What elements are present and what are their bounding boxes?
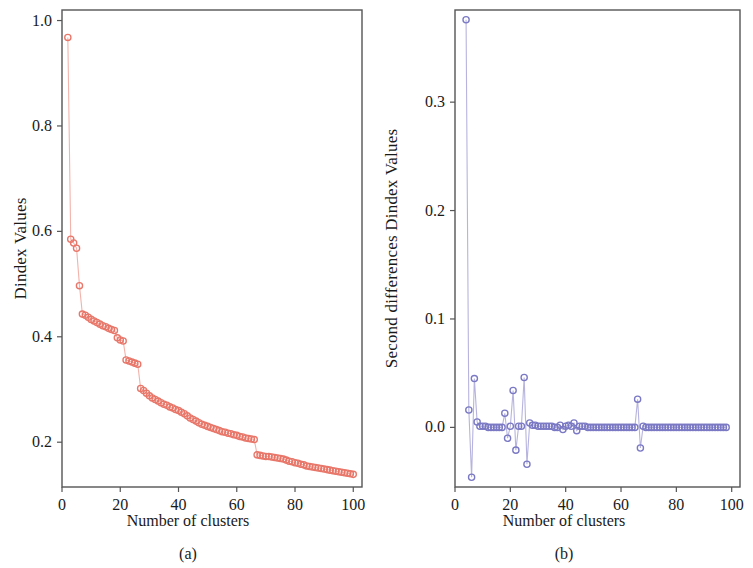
- x-tick-label: 40: [171, 496, 187, 514]
- x-tick-label: 0: [451, 496, 459, 514]
- x-axis-title-a: Number of clusters: [0, 512, 376, 530]
- x-tick-label: 40: [558, 496, 574, 514]
- plot-frame: [455, 10, 740, 487]
- y-axis-title-a: Dindex Values: [6, 0, 36, 497]
- figure-container: Dindex Values Number of clusters (a) 0.2…: [0, 0, 753, 568]
- x-axis-title-b: Number of clusters: [376, 512, 752, 530]
- panel-a: Dindex Values Number of clusters (a) 0.2…: [0, 0, 376, 568]
- x-tick-label: 80: [287, 496, 303, 514]
- y-tick-label: 0.2: [10, 433, 52, 451]
- data-series-line: [68, 37, 353, 474]
- y-tick-label: 0.6: [10, 222, 52, 240]
- x-tick-label: 0: [58, 496, 66, 514]
- y-tick-label: 0.4: [10, 328, 52, 346]
- x-tick-label: 100: [341, 496, 365, 514]
- x-tick-label: 60: [229, 496, 245, 514]
- y-tick-label: 0.3: [403, 93, 445, 111]
- y-tick-label: 0.2: [403, 202, 445, 220]
- x-tick-label: 20: [112, 496, 128, 514]
- x-tick-label: 60: [613, 496, 629, 514]
- data-series-line: [466, 20, 726, 477]
- y-tick-label: 0.8: [10, 117, 52, 135]
- y-tick-label: 0.0: [403, 418, 445, 436]
- plot-frame: [62, 10, 362, 487]
- panel-b: Second differences Dindex Values Number …: [376, 0, 752, 568]
- panel-caption-a: (a): [0, 545, 376, 563]
- data-series-markers: [463, 17, 729, 481]
- x-tick-label: 100: [720, 496, 744, 514]
- data-series-markers: [65, 34, 357, 477]
- x-tick-label: 80: [668, 496, 684, 514]
- x-tick-label: 20: [502, 496, 518, 514]
- y-tick-label: 0.1: [403, 310, 445, 328]
- plot-a: [0, 0, 376, 568]
- y-tick-label: 1.0: [10, 12, 52, 30]
- plot-b: [376, 0, 752, 568]
- panel-caption-b: (b): [376, 545, 752, 563]
